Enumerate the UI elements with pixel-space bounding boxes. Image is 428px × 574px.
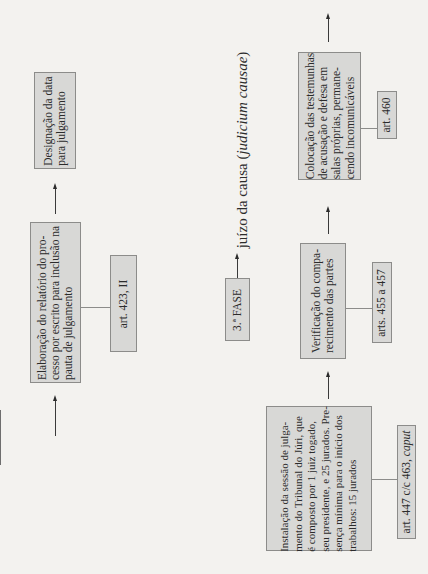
colocacao-ref: art. 460: [380, 97, 393, 132]
line: cesso por escrito para inclusão na: [49, 225, 62, 379]
connector-line: [361, 128, 377, 129]
line: para julgamento: [55, 76, 68, 165]
line: Colocação das testemunhas: [303, 53, 316, 179]
elaboracao-ref: art. 423, II: [117, 279, 130, 328]
connector-line: [81, 307, 110, 308]
instalacao-box: Instalação da sessão de julga- mento do …: [266, 406, 372, 551]
line: mento do Tribunal do Júri, que: [292, 406, 306, 552]
line: Elaboração do relatório do pro-: [36, 225, 49, 379]
instalacao-ref: art. 447 c/c 463, caput: [400, 431, 413, 534]
connector-line: [346, 308, 372, 309]
verificacao-text: Verificação do compa- recimento das part…: [310, 249, 336, 353]
arrow-head-icon: [53, 395, 57, 401]
arrow-head-icon: [326, 206, 330, 212]
arrow-head-icon: [326, 13, 330, 19]
line: sença mínima para o início dos: [333, 406, 347, 552]
line: cendo incomunicáveis: [343, 53, 356, 179]
line: Designação da data: [42, 76, 55, 165]
arrow-line: [55, 188, 56, 214]
colocacao-box: Colocação das testemunhas de acusação e …: [298, 52, 361, 180]
arrow-line: [328, 18, 329, 42]
line: é composto por 1 juiz togado,: [305, 406, 319, 552]
arrow-line: [237, 258, 238, 278]
phase-box: 3.ª FASE: [225, 278, 250, 341]
line: de acusação e defesa em: [316, 53, 329, 179]
phase-title-close: ): [234, 52, 250, 57]
line: Verificação do compa-: [310, 249, 323, 353]
line: recimento das partes: [323, 249, 336, 353]
arrow-head-icon: [235, 253, 239, 259]
verificacao-ref: arts. 455 a 457: [375, 269, 388, 337]
arrow-line: [328, 211, 329, 234]
connector-line: [372, 479, 397, 480]
instalacao-ref-box: art. 447 c/c 463, caput: [397, 425, 416, 539]
designacao-text: Designação da data para julgamento: [42, 76, 68, 165]
line: seu presidente, e 25 jurados. Pre-: [319, 406, 333, 552]
phase-title-italic: judicium causae: [234, 57, 250, 155]
elaboracao-box: Elaboração do relatório do pro- cesso po…: [30, 222, 81, 383]
arrow-line: [55, 400, 56, 436]
line: Instalação da sessão de julga-: [278, 406, 292, 552]
verificacao-ref-box: arts. 455 a 457: [372, 262, 392, 343]
designacao-box: Designação da data para julgamento: [34, 72, 76, 169]
colocacao-ref-box: art. 460: [377, 91, 397, 139]
line: salas próprias, permane-: [330, 53, 343, 179]
colocacao-text: Colocação das testemunhas de acusação e …: [303, 53, 356, 179]
elaboracao-text: Elaboração do relatório do pro- cesso po…: [36, 225, 76, 379]
phase-label: 3.ª FASE: [231, 289, 244, 331]
phase-title: juízo da causa (judicium causae): [234, 52, 251, 249]
arrow-head-icon: [53, 183, 57, 189]
phase-title-container: juízo da causa (judicium causae): [228, 66, 256, 234]
clipped-box-edge: [0, 410, 1, 465]
phase-title-main: juízo da causa (: [234, 155, 250, 249]
ref-main: art. 447 c/c 463,: [400, 456, 412, 533]
verificacao-box: Verificação do compa- recimento das part…: [300, 243, 346, 359]
arrow-head-icon: [326, 371, 330, 377]
elaboracao-ref-box: art. 423, II: [110, 255, 137, 352]
ref-italic: caput: [400, 431, 412, 457]
line: trabalhos: 15 jurados: [346, 406, 360, 552]
instalacao-text: Instalação da sessão de julga- mento do …: [278, 406, 360, 552]
line: pauta de julgamento: [62, 225, 75, 379]
arrow-line: [328, 376, 329, 399]
